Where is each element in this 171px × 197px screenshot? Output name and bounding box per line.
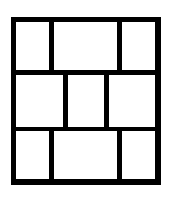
grid-cell-r2-c1: [16, 75, 63, 127]
grid-cell-r2-c2: [68, 75, 104, 127]
grid-cell-r2-c3: [109, 75, 155, 127]
grid-cell-r3-c2: [54, 131, 117, 179]
grid-cell-r1-c2: [54, 22, 117, 70]
grid-cell-r1-c1: [16, 22, 49, 70]
grid-cell-r1-c3: [122, 22, 155, 70]
grid-cell-r3-c1: [16, 131, 49, 179]
grid-cell-r3-c3: [122, 131, 155, 179]
